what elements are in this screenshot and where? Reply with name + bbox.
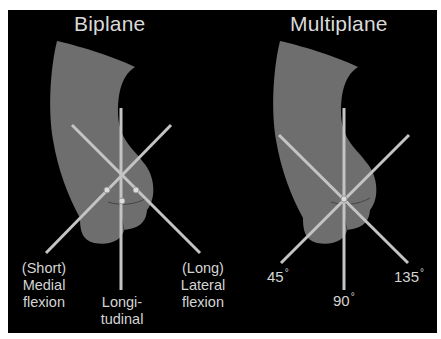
degree-symbol: ° bbox=[351, 291, 355, 302]
lateral-flexion-label: (Long) Lateral flexion bbox=[172, 260, 234, 311]
degree-symbol: ° bbox=[285, 267, 289, 278]
marker-dot bbox=[119, 198, 125, 204]
label-line: (Long) bbox=[172, 260, 234, 277]
marker-dot bbox=[104, 187, 110, 193]
label-line: Lateral bbox=[172, 277, 234, 294]
angle-135-label: 135° bbox=[394, 267, 424, 285]
angle-45-label: 45° bbox=[267, 267, 289, 285]
marker-dot bbox=[133, 187, 139, 193]
label-line: Medial bbox=[12, 277, 76, 294]
biplane-title: Biplane bbox=[74, 12, 145, 36]
angle-value: 45 bbox=[267, 268, 284, 285]
label-line: Longi- bbox=[94, 294, 150, 311]
medial-flexion-label: (Short) Medial flexion bbox=[12, 260, 76, 311]
angle-value: 135 bbox=[394, 268, 419, 285]
longitudinal-label: Longi- tudinal bbox=[94, 294, 150, 328]
label-line: flexion bbox=[172, 294, 234, 311]
multiplane-organ-shape bbox=[273, 41, 376, 244]
multiplane-title: Multiplane bbox=[290, 12, 388, 36]
multiplane-center-marker bbox=[341, 196, 347, 202]
angle-value: 90 bbox=[333, 292, 350, 309]
biplane-organ-shape bbox=[50, 41, 153, 244]
label-line: (Short) bbox=[12, 260, 76, 277]
degree-symbol: ° bbox=[420, 267, 424, 278]
label-line: flexion bbox=[12, 294, 76, 311]
label-line: tudinal bbox=[94, 311, 150, 328]
angle-90-label: 90° bbox=[333, 291, 355, 309]
